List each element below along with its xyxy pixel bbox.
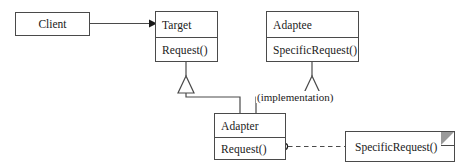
connector-adapter-to-target: [186, 93, 240, 113]
note-fold-icon: [441, 132, 454, 145]
class-box-client[interactable]: Client: [15, 12, 90, 36]
note-text: SpecificRequest(): [355, 141, 437, 153]
class-name-adaptee: Adaptee: [267, 12, 358, 37]
implementation-label: (implementation): [256, 91, 334, 103]
note-specificrequest[interactable]: SpecificRequest(): [345, 131, 455, 162]
class-name-adapter: Adapter: [215, 114, 285, 137]
class-operation-target-request: Request(): [156, 37, 217, 61]
note-fold-edge: [441, 145, 455, 146]
class-operation-adaptee-specificrequest: SpecificRequest(): [267, 37, 358, 61]
class-name-target: Target: [156, 12, 217, 37]
class-operation-adapter-request: Request(): [215, 137, 285, 160]
class-name-client: Client: [38, 18, 66, 30]
uml-class-diagram: Client Target Request() Adaptee Specific…: [0, 0, 471, 167]
class-box-target[interactable]: Target Request(): [155, 11, 218, 62]
class-box-adapter[interactable]: Adapter Request(): [214, 113, 286, 160]
class-box-adaptee[interactable]: Adaptee SpecificRequest(): [266, 11, 359, 62]
generalization-triangle-target: [178, 76, 194, 93]
